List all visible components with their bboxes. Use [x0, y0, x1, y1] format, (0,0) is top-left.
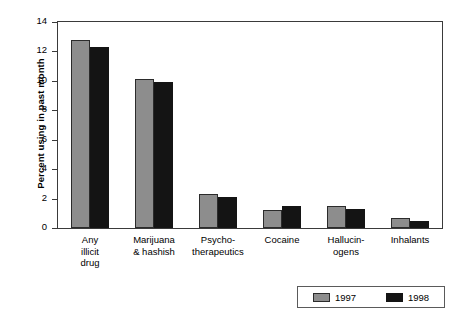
- y-axis-tick-mark: [52, 169, 57, 170]
- bar-group: [135, 22, 173, 228]
- x-axis-label: Inhalants: [364, 234, 456, 246]
- bar-1997: [199, 194, 218, 228]
- y-axis-tick-mark: [52, 110, 57, 111]
- bar-group: [199, 22, 237, 228]
- bar-1998: [90, 47, 109, 228]
- y-axis-tick-label: 6: [42, 133, 47, 144]
- y-axis-tick-mark: [52, 81, 57, 82]
- bar-1997: [391, 218, 410, 228]
- bar-chart: Percent using in past month 02468101214 …: [0, 0, 457, 316]
- bar-1998: [218, 197, 237, 228]
- bar-1997: [135, 79, 154, 228]
- legend-label-1998: 1998: [408, 292, 429, 303]
- bar-1998: [282, 206, 301, 228]
- y-axis-tick-mark: [52, 140, 57, 141]
- y-axis-tick-label: 2: [42, 192, 47, 203]
- bar-1998: [154, 82, 173, 228]
- bar-group: [263, 22, 301, 228]
- bar-1997: [327, 206, 346, 228]
- legend: 1997 1998: [297, 286, 445, 308]
- y-axis-tick-label: 10: [36, 74, 47, 85]
- bar-group: [71, 22, 109, 228]
- legend-label-1997: 1997: [335, 292, 356, 303]
- y-axis-tick-mark: [52, 199, 57, 200]
- legend-swatch-1997: [313, 293, 330, 302]
- y-axis-tick-mark: [52, 22, 57, 23]
- bar-1998: [410, 221, 429, 228]
- bar-1997: [263, 210, 282, 228]
- y-axis-tick-label: 8: [42, 103, 47, 114]
- y-axis-tick-label: 0: [42, 221, 47, 232]
- bar-1997: [71, 40, 90, 228]
- legend-item-1998: 1998: [386, 292, 429, 303]
- bar-group: [327, 22, 365, 228]
- y-axis-tick-mark: [52, 228, 57, 229]
- bar-group: [391, 22, 429, 228]
- y-axis-tick-label: 12: [36, 44, 47, 55]
- y-axis-tick-label: 14: [36, 15, 47, 26]
- bars-layer: [58, 22, 442, 228]
- legend-item-1997: 1997: [313, 292, 356, 303]
- bar-1998: [346, 209, 365, 228]
- legend-swatch-1998: [386, 293, 403, 302]
- y-axis-tick-mark: [52, 51, 57, 52]
- y-axis-tick-label: 4: [42, 162, 47, 173]
